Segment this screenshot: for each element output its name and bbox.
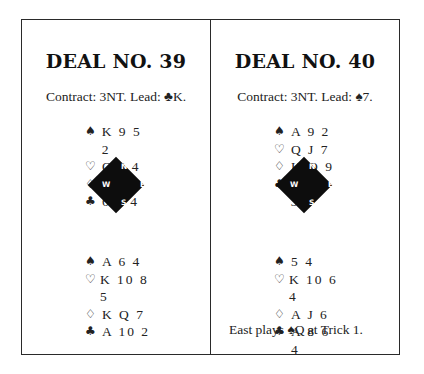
trick-note: East plays ♠Q at Trick 1. xyxy=(229,322,363,338)
diamond-icon: ♢ xyxy=(85,306,102,324)
deal-40-panel: DEAL NO. 40 Contract: 3NT. Lead: ♠7. ♠A … xyxy=(211,20,399,354)
deal-title: DEAL NO. 40 xyxy=(211,50,399,72)
south-diamonds: ♢K Q 7 xyxy=(85,306,155,324)
contract-lead: Contract: 3NT. Lead: ♣K. xyxy=(22,89,210,105)
south-hand: ♠A 6 4 ♡K 10 8 5 ♢K Q 7 ♣A 10 2 xyxy=(22,253,210,341)
north-spades: ♠K 9 5 2 xyxy=(85,123,155,158)
deals-frame: DEAL NO. 39 Contract: 3NT. Lead: ♣K. ♠K … xyxy=(21,19,400,355)
south-diamonds: ♢A J 6 xyxy=(274,306,344,324)
spade-icon: ♠ xyxy=(85,123,102,158)
north-spades: ♠A 9 2 xyxy=(274,123,344,141)
spade-icon: ♠ xyxy=(85,253,102,271)
diamond-icon: ♢ xyxy=(274,306,291,324)
south-hearts: ♡K 10 8 5 xyxy=(85,271,155,306)
south-hand: ♠5 4 ♡K 10 6 4 ♢A J 6 ♣A 8 6 4 xyxy=(211,253,399,358)
deal-title: DEAL NO. 39 xyxy=(22,50,210,72)
south-spades: ♠5 4 xyxy=(274,253,344,271)
heart-icon: ♡ xyxy=(274,271,289,306)
compass-icon: N S W E xyxy=(284,165,324,205)
north-hearts: ♡Q J 7 xyxy=(274,141,344,159)
heart-icon: ♡ xyxy=(85,271,100,306)
spade-icon: ♠ xyxy=(274,123,291,141)
contract-lead: Contract: 3NT. Lead: ♠7. xyxy=(211,89,399,105)
deal-39-panel: DEAL NO. 39 Contract: 3NT. Lead: ♣K. ♠K … xyxy=(22,20,211,354)
south-spades: ♠A 6 4 xyxy=(85,253,155,271)
compass-icon: N S W E xyxy=(96,165,136,205)
south-clubs: ♣A 10 2 xyxy=(85,323,155,341)
south-hearts: ♡K 10 6 4 xyxy=(274,271,344,306)
club-icon: ♣ xyxy=(85,323,102,341)
heart-icon: ♡ xyxy=(274,141,291,159)
spade-icon: ♠ xyxy=(274,253,291,271)
